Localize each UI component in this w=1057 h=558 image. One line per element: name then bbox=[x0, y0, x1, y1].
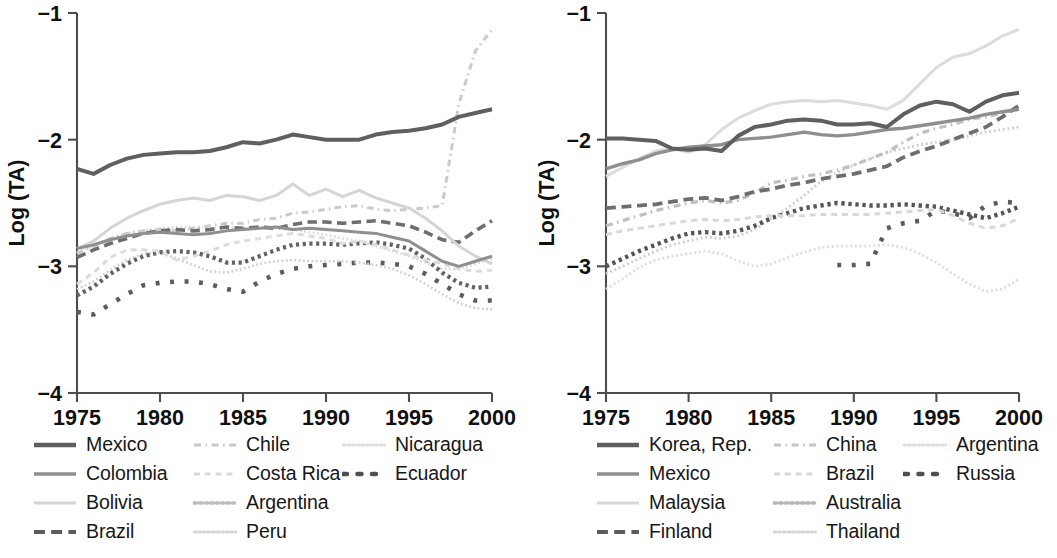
line-chart-left: −1−2−3−4197519801985199019952000Log (TA) bbox=[0, 0, 530, 430]
y-tick-label: −1 bbox=[37, 2, 62, 26]
legend-label: Mexico bbox=[649, 464, 710, 483]
legend-label: Finland bbox=[649, 522, 712, 541]
x-tick-label: 1975 bbox=[53, 406, 101, 430]
legend-item[interactable]: Argentina bbox=[193, 488, 340, 517]
x-tick-label: 2000 bbox=[995, 406, 1043, 430]
legend-label: Costa Rica bbox=[246, 464, 340, 483]
legend-label: Argentina bbox=[246, 493, 329, 512]
legend-line-swatch-icon bbox=[193, 525, 237, 539]
legend-column: ChileCosta RicaArgentinaPeru bbox=[193, 430, 340, 546]
x-tick-label: 2000 bbox=[468, 406, 516, 430]
line-chart-right: −1−2−3−4197519801985199019952000Log (TA) bbox=[530, 0, 1057, 430]
series-line bbox=[77, 184, 492, 264]
legend-label: Russia bbox=[956, 464, 1015, 483]
y-tick-label: −3 bbox=[37, 255, 62, 279]
y-axis-title: Log (TA) bbox=[535, 160, 559, 247]
legend-item[interactable]: Nicaragua bbox=[342, 430, 483, 459]
legend-line-swatch-icon bbox=[33, 467, 77, 481]
legend-column: Korea, Rep.MexicoMalaysiaFinland bbox=[596, 430, 752, 546]
legend-item[interactable]: Ecuador bbox=[342, 459, 483, 488]
legend-column: ArgentinaRussia bbox=[903, 430, 1039, 488]
legend-label: Brazil bbox=[86, 522, 134, 541]
legend-item[interactable]: Brazil bbox=[33, 517, 168, 546]
legend-column: NicaraguaEcuador bbox=[342, 430, 483, 488]
legend-line-swatch-icon bbox=[33, 438, 77, 452]
x-tick-label: 1980 bbox=[665, 406, 713, 430]
x-tick-label: 1995 bbox=[385, 406, 433, 430]
legend-item[interactable]: Bolivia bbox=[33, 488, 168, 517]
series-line bbox=[837, 202, 1019, 265]
legend-line-swatch-icon bbox=[903, 467, 947, 481]
x-tick-label: 1990 bbox=[830, 406, 878, 430]
legend-item[interactable]: Brazil bbox=[773, 459, 901, 488]
series-line bbox=[77, 233, 492, 284]
legend-item[interactable]: Mexico bbox=[596, 459, 752, 488]
x-tick-label: 1975 bbox=[582, 406, 630, 430]
legend-line-swatch-icon bbox=[773, 467, 817, 481]
y-tick-label: −4 bbox=[566, 382, 591, 406]
legend-line-swatch-icon bbox=[193, 438, 237, 452]
legend-label: Chile bbox=[246, 435, 290, 454]
legend-line-swatch-icon bbox=[596, 438, 640, 452]
legend-label: Ecuador bbox=[395, 464, 467, 483]
legend-column: ChinaBrazilAustraliaThailand bbox=[773, 430, 901, 546]
legend-item[interactable]: Argentina bbox=[903, 430, 1039, 459]
legend-item[interactable]: China bbox=[773, 430, 901, 459]
legend-label: Brazil bbox=[826, 464, 874, 483]
legend-line-swatch-icon bbox=[342, 467, 386, 481]
legend-item[interactable]: Mexico bbox=[33, 430, 168, 459]
series-line bbox=[606, 108, 1019, 226]
legend-label: Bolivia bbox=[86, 493, 143, 512]
legend-line-swatch-icon bbox=[596, 496, 640, 510]
legend-item[interactable]: Costa Rica bbox=[193, 459, 340, 488]
y-tick-label: −2 bbox=[566, 129, 591, 153]
y-tick-label: −2 bbox=[37, 129, 62, 153]
legend-label: China bbox=[826, 435, 876, 454]
figure-container: −1−2−3−4197519801985199019952000Log (TA)… bbox=[0, 0, 1057, 558]
legend-label: Australia bbox=[826, 493, 901, 512]
legend-line-swatch-icon bbox=[773, 525, 817, 539]
y-tick-label: −4 bbox=[37, 382, 62, 406]
chart-panel-left: −1−2−3−4197519801985199019952000Log (TA)… bbox=[0, 0, 530, 558]
x-tick-label: 1995 bbox=[912, 406, 960, 430]
series-line bbox=[77, 252, 492, 309]
legend-item[interactable]: Thailand bbox=[773, 517, 901, 546]
series-line bbox=[77, 263, 492, 315]
legend-item[interactable]: Finland bbox=[596, 517, 752, 546]
legend-label: Mexico bbox=[86, 435, 147, 454]
x-tick-label: 1985 bbox=[747, 406, 795, 430]
legend-item[interactable]: Chile bbox=[193, 430, 340, 459]
legend-line-swatch-icon bbox=[33, 496, 77, 510]
legend-line-swatch-icon bbox=[596, 525, 640, 539]
y-tick-label: −3 bbox=[566, 255, 591, 279]
legend-line-swatch-icon bbox=[193, 467, 237, 481]
legend-line-swatch-icon bbox=[903, 438, 947, 452]
series-line bbox=[606, 245, 1019, 292]
series-line bbox=[606, 29, 1019, 176]
legend-line-swatch-icon bbox=[33, 525, 77, 539]
legend-item[interactable]: Malaysia bbox=[596, 488, 752, 517]
legend-item[interactable]: Peru bbox=[193, 517, 340, 546]
legend-label: Peru bbox=[246, 522, 287, 541]
x-tick-label: 1985 bbox=[219, 406, 267, 430]
legend-column: MexicoColombiaBoliviaBrazil bbox=[33, 430, 168, 546]
chart-panel-right: −1−2−3−4197519801985199019952000Log (TA)… bbox=[530, 0, 1057, 558]
legend-label: Argentina bbox=[956, 435, 1039, 454]
legend-label: Korea, Rep. bbox=[649, 435, 752, 454]
legend-label: Thailand bbox=[826, 522, 900, 541]
legend-right: Korea, Rep.MexicoMalaysiaFinlandChinaBra… bbox=[530, 430, 1057, 558]
y-tick-label: −1 bbox=[566, 2, 591, 26]
series-line bbox=[77, 242, 492, 295]
legend-item[interactable]: Australia bbox=[773, 488, 901, 517]
legend-line-swatch-icon bbox=[596, 467, 640, 481]
legend-line-swatch-icon bbox=[773, 438, 817, 452]
legend-line-swatch-icon bbox=[773, 496, 817, 510]
legend-item[interactable]: Russia bbox=[903, 459, 1039, 488]
legend-label: Nicaragua bbox=[395, 435, 483, 454]
y-axis-title: Log (TA) bbox=[5, 160, 29, 247]
legend-line-swatch-icon bbox=[342, 438, 386, 452]
legend-item[interactable]: Colombia bbox=[33, 459, 168, 488]
legend-label: Colombia bbox=[86, 464, 168, 483]
legend-line-swatch-icon bbox=[193, 496, 237, 510]
legend-item[interactable]: Korea, Rep. bbox=[596, 430, 752, 459]
